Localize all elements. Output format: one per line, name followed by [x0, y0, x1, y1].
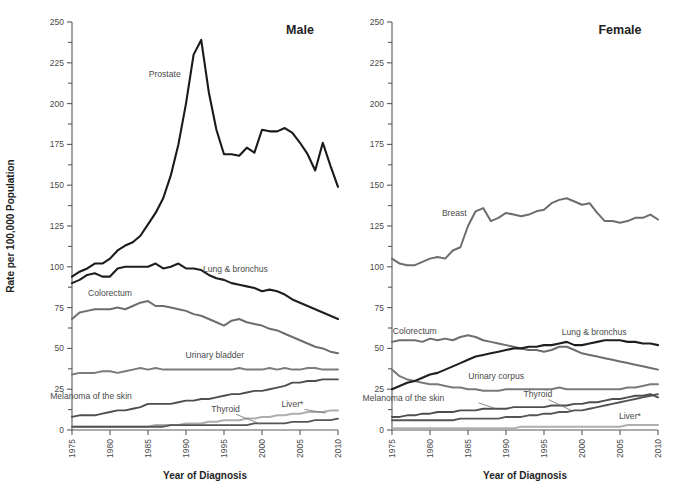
- y-tick-label: 225: [370, 58, 384, 68]
- y-tick-label: 125: [50, 221, 64, 231]
- x-tick-label: 1980: [105, 439, 115, 458]
- series-label-thyroid: Thyroid: [211, 404, 240, 414]
- series-label-liver: Liver*: [619, 411, 642, 421]
- y-tick-label: 150: [50, 180, 64, 190]
- chart-canvas: 0255075100125150175200225250197519801985…: [0, 0, 677, 501]
- y-tick-label: 100: [50, 262, 64, 272]
- y-tick-label: 0: [379, 425, 384, 435]
- x-tick-label: 2000: [577, 439, 587, 458]
- y-tick-label: 0: [59, 425, 64, 435]
- x-tick-label: 2005: [615, 439, 625, 458]
- x-tick-label: 1990: [181, 439, 191, 458]
- y-tick-label: 225: [50, 58, 64, 68]
- x-tick-label: 1985: [143, 439, 153, 458]
- x-tick-label: 1975: [387, 439, 397, 458]
- y-tick-label: 250: [50, 17, 64, 27]
- y-tick-label: 200: [370, 99, 384, 109]
- series-label-lung-bronchus: Lung & bronchus: [203, 264, 268, 274]
- x-axis-title-male: Year of Diagnosis: [163, 470, 247, 481]
- series-label-lung-bronchus: Lung & bronchus: [562, 327, 627, 337]
- series-line-colorectum: [72, 301, 338, 353]
- x-tick-label: 2005: [295, 439, 305, 458]
- series-label-breast: Breast: [442, 208, 467, 218]
- series-label-liver: Liver*: [281, 399, 304, 409]
- x-tick-label: 1980: [425, 439, 435, 458]
- x-tick-label: 1975: [67, 439, 77, 458]
- y-axis-title: Rate per 100,000 Population: [5, 159, 16, 292]
- x-axis-title-female: Year of Diagnosis: [483, 470, 567, 481]
- series-line-lung-bronchus: [392, 340, 658, 389]
- panel-female: 0255075100125150175200225250197519801985…: [363, 17, 664, 481]
- y-tick-label: 75: [55, 303, 65, 313]
- series-label-prostate: Prostate: [149, 69, 181, 79]
- y-tick-label: 100: [370, 262, 384, 272]
- series-label-thyroid: Thyroid: [524, 389, 553, 399]
- x-tick-label: 1985: [463, 439, 473, 458]
- y-tick-label: 50: [55, 343, 65, 353]
- cancer-incidence-figure: 0255075100125150175200225250197519801985…: [0, 0, 677, 501]
- series-line-breast: [392, 198, 658, 265]
- series-label-melanoma-of-the-skin: Melanoma of the skin: [363, 393, 445, 403]
- y-tick-label: 50: [375, 343, 385, 353]
- series-label-colorectum: Colorectum: [88, 288, 132, 298]
- x-tick-label: 1990: [501, 439, 511, 458]
- series-line-urinary-bladder: [72, 368, 338, 375]
- y-tick-label: 175: [370, 139, 384, 149]
- y-tick-label: 200: [50, 99, 64, 109]
- series-label-urinary-corpus: Urinary corpus: [468, 371, 524, 381]
- x-tick-label: 1995: [219, 439, 229, 458]
- y-tick-label: 150: [370, 180, 384, 190]
- y-tick-label: 75: [375, 303, 385, 313]
- series-line-liver: [392, 425, 658, 428]
- axis-frame-female: [392, 22, 658, 430]
- y-tick-label: 250: [370, 17, 384, 27]
- x-tick-label: 2010: [333, 439, 343, 458]
- y-tick-label: 125: [370, 221, 384, 231]
- y-tick-label: 175: [50, 139, 64, 149]
- panel-male: 0255075100125150175200225250197519801985…: [50, 17, 343, 481]
- x-tick-label: 2010: [653, 439, 663, 458]
- x-tick-label: 2000: [257, 439, 267, 458]
- x-tick-label: 1995: [539, 439, 549, 458]
- series-label-melanoma-of-the-skin: Melanoma of the skin: [50, 391, 132, 401]
- panel-title-male: Male: [286, 23, 314, 37]
- panel-title-female: Female: [598, 23, 641, 37]
- series-line-prostate: [72, 40, 338, 277]
- series-line-urinary-corpus: [392, 370, 658, 391]
- series-label-urinary-bladder: Urinary bladder: [185, 350, 244, 360]
- series-label-colorectum: Colorectum: [393, 326, 437, 336]
- label-leader-line: [479, 403, 496, 409]
